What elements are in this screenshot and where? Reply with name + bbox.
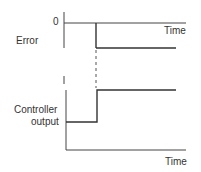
error-time-label: Time xyxy=(164,25,186,36)
error-label: Error xyxy=(16,35,38,46)
controller-output-trace xyxy=(66,90,176,122)
output-time-label: Time xyxy=(165,156,187,167)
zero-label: 0 xyxy=(53,16,59,27)
controller-label-line2: output xyxy=(31,116,59,127)
controller-label-line1: Controller xyxy=(14,104,57,115)
